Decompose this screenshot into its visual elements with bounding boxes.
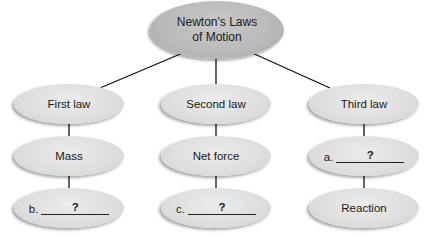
node-reaction: Reaction xyxy=(309,188,419,228)
node-blank-c[interactable]: c. ? xyxy=(161,188,271,228)
first-law-label: First law xyxy=(48,98,91,110)
node-net-force: Net force xyxy=(161,136,271,176)
blank-c[interactable]: c. ? xyxy=(176,201,256,215)
node-third-law: Third law xyxy=(309,84,419,124)
blank-c-answer[interactable]: ? xyxy=(188,201,256,215)
blank-a-answer[interactable]: ? xyxy=(336,149,404,163)
net-force-label: Net force xyxy=(193,150,240,162)
third-law-label: Third law xyxy=(341,98,388,110)
reaction-label: Reaction xyxy=(341,202,386,214)
mass-label: Mass xyxy=(55,150,82,162)
connector-root-third-law xyxy=(250,52,330,88)
root-node-newtons-laws: Newton's Laws of Motion xyxy=(150,1,284,59)
blank-b-answer[interactable]: ? xyxy=(41,201,109,215)
node-second-law: Second law xyxy=(161,84,271,124)
blank-c-prefix: c. xyxy=(176,203,185,215)
connector-root-first-law xyxy=(100,52,185,88)
second-law-label: Second law xyxy=(186,98,245,110)
blank-a-prefix: a. xyxy=(324,151,334,163)
node-mass: Mass xyxy=(14,136,124,176)
node-blank-a[interactable]: a. ? xyxy=(309,136,419,176)
blank-b[interactable]: b. ? xyxy=(29,201,110,215)
blank-a[interactable]: a. ? xyxy=(324,149,405,163)
node-first-law: First law xyxy=(14,84,124,124)
node-blank-b[interactable]: b. ? xyxy=(14,188,124,228)
root-label-line2: of Motion xyxy=(192,30,241,45)
root-label-line1: Newton's Laws xyxy=(177,15,257,30)
blank-b-prefix: b. xyxy=(29,203,39,215)
